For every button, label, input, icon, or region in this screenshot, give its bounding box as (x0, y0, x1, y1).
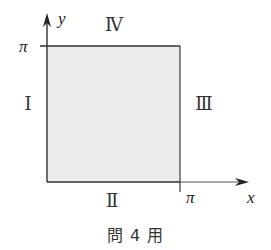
figure-caption: 問 4 用 (0, 222, 271, 246)
edge-label-right-III: Ⅲ (195, 94, 212, 114)
edge-label-left-I: Ⅰ (24, 94, 31, 114)
edge-label-bottom-II: Ⅱ (106, 191, 118, 211)
x-tick-pi-label: π (186, 188, 195, 207)
y-axis-label: y (56, 9, 66, 28)
square-region (47, 46, 180, 182)
y-tick-pi-label: π (19, 37, 28, 56)
edge-label-top-IV: Ⅳ (105, 15, 124, 35)
x-axis-label: x (246, 188, 255, 207)
diagram-canvas: y x π π Ⅰ Ⅳ Ⅲ Ⅱ (0, 0, 271, 250)
